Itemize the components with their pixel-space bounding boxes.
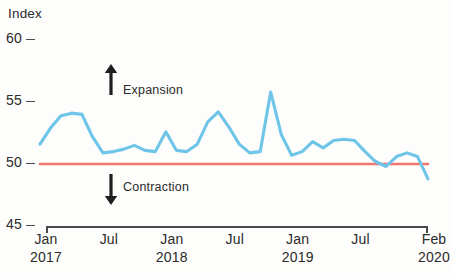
y-tick-label: 55 <box>6 92 22 108</box>
x-axis-line <box>46 226 428 228</box>
y-axis-tick-45: 45 <box>6 216 35 232</box>
annotation-contraction: Contraction <box>123 180 189 194</box>
x-label-month: Jul <box>205 232 265 247</box>
x-label-month: Jul <box>79 232 139 247</box>
x-label-year: 2017 <box>16 250 76 265</box>
x-axis-labels: Jan2017JulJan2018JulJan2019JulFeb2020 <box>0 232 428 279</box>
x-axis-label-6: Feb2020 <box>404 232 454 264</box>
chart-svg <box>40 40 428 226</box>
y-axis-tick-55: 55 <box>6 92 35 108</box>
y-axis-tick-50: 50 <box>6 154 35 170</box>
arrow-up-icon <box>103 62 119 100</box>
x-label-month: Feb <box>404 232 454 247</box>
annotation-expansion: Expansion <box>123 83 183 97</box>
y-axis-tick-60: 60 <box>6 30 35 46</box>
x-axis-label-3: Jul <box>205 232 265 247</box>
x-axis-label-1: Jul <box>79 232 139 247</box>
arrow-down-icon <box>103 172 119 210</box>
y-tick-dash-icon <box>26 101 35 103</box>
y-tick-label: 50 <box>6 154 22 170</box>
x-label-year: 2019 <box>268 250 328 265</box>
x-label-month: Jan <box>142 232 202 247</box>
x-label-month: Jul <box>331 232 391 247</box>
y-tick-dash-icon <box>26 39 35 41</box>
x-axis-label-2: Jan2018 <box>142 232 202 264</box>
y-axis-title: Index <box>8 6 42 21</box>
y-tick-dash-icon <box>26 225 35 227</box>
plot-area <box>40 40 428 226</box>
x-axis-label-5: Jul <box>331 232 391 247</box>
y-tick-label: 45 <box>6 216 22 232</box>
series-line-index <box>40 92 428 179</box>
y-tick-dash-icon <box>26 163 35 165</box>
x-axis-label-4: Jan2019 <box>268 232 328 264</box>
x-axis-label-0: Jan2017 <box>16 232 76 264</box>
x-label-year: 2020 <box>404 250 454 265</box>
x-label-year: 2018 <box>142 250 202 265</box>
x-label-month: Jan <box>16 232 76 247</box>
x-label-month: Jan <box>268 232 328 247</box>
y-tick-label: 60 <box>6 30 22 46</box>
